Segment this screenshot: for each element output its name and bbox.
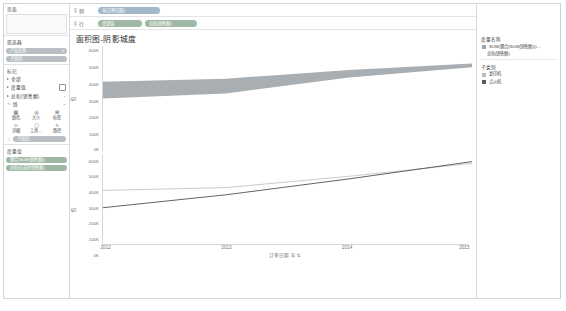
x-axis-title[interactable]: 订单日期 年 ⇅ [102,252,468,258]
x-axis: 2012 2013 2014 2015 订单日期 年 ⇅ [102,244,468,266]
marks-button-label: 大小 [32,116,40,120]
marks-buttons-grid: ▦ 颜色 ◎ 大小 ⊞ 标签 ⊹ 详细 ▢ 工具… [4,108,69,136]
legend-item[interactable]: 点火机 [477,78,560,86]
expand-arrow-icon[interactable] [7,78,9,80]
marks-button-path[interactable]: ∿ 路径 [47,122,67,134]
x-tick: 2015 [459,245,469,250]
rows-shelf-label: 行 [70,20,98,27]
marks-pill-subcategory[interactable]: 子类别 [13,136,66,142]
legend-item[interactable]: 复印机 [477,71,560,79]
y-tick: 400K [89,190,99,195]
divider [4,64,69,65]
marks-button-tooltip[interactable]: ▢ 工具… [27,122,47,134]
chevron-down-icon[interactable]: ▾ [62,48,64,55]
marks-button-color[interactable]: ▦ 颜色 [6,109,26,121]
legend-item[interactable]: 总和(销售额) [477,51,560,57]
columns-shelf-label: 列 [70,7,98,14]
y-tick: 300K [89,98,99,103]
y-axis-ticks-top: 600K 500K 400K 300K 200K 100K 0K [76,46,100,151]
pages-shelf-label: 页面 [4,4,69,13]
line-series-igniter [103,162,472,208]
area-band-shape [103,64,472,99]
columns-pill-year-order-date[interactable]: 年(订单日期) [98,7,160,14]
pages-shelf-dropzone[interactable] [6,14,67,34]
measure-values-dropzone[interactable]: 聚合(SUM(销售额)) 总和(先前的销售额) [4,157,69,172]
measure-pill-sum-prior-sales[interactable]: 总和(先前的销售额) [6,165,67,172]
legend-swatch-icon [481,44,487,50]
left-sidebar: 页面 筛选器 产品名称 ▾ 子类别 标记 全部 度量值 [4,4,70,298]
marks-button-label: 工具… [30,129,42,133]
chevron-down-icon[interactable]: ⌄ [63,101,66,106]
y-tick: 100K [89,132,99,137]
rows-pills: 度量值 总和(销售额) [98,20,197,27]
y-tick: 500K [89,65,99,70]
y-tick: 400K [89,81,99,86]
y-tick: 600K [89,48,99,53]
line-series-svg [103,154,472,244]
legend-panel: 度量名称 SUM(聚合(SUM(销售额)))… 总和(销售额) 子类别 复印机 … [476,4,560,298]
filter-pill-label: 子类别 [10,56,22,61]
measure-values-shelf-label: 度量值 [4,146,69,155]
app-frame: 页面 筛选器 产品名称 ▾ 子类别 标记 全部 度量值 [3,3,561,299]
marks-row-sum-sales[interactable]: 总和(销售额) ⌄ [4,92,69,100]
page-title: 面积图-阴影城度 [70,30,476,44]
x-axis-title-text: 订单日期 年 [269,253,295,258]
plot-area-top [102,46,472,151]
filters-shelf-label: 筛选器 [4,37,69,46]
y-tick: 600K [89,158,99,163]
chart-pane-measure-values: 值 600K 500K 400K 300K 200K 100K 0K [70,46,472,151]
mark-type-icon[interactable] [59,84,66,91]
sort-icon[interactable]: ⇅ [297,253,301,258]
y-tick: 300K [89,205,99,210]
rows-pill-measure-values[interactable]: 度量值 [98,20,142,27]
marks-row-all[interactable]: 全部 [4,75,69,83]
color-icon: ▦ [13,110,18,115]
x-tick: 2013 [221,245,231,250]
chevron-down-icon[interactable]: ⌄ [63,93,66,98]
columns-pills: 年(订单日期) [98,7,160,14]
expand-arrow-icon[interactable] [7,86,9,88]
area-band-svg [103,46,472,151]
marks-row-label: 总和(销售额) [11,93,39,99]
label-icon: ⊞ [55,110,59,115]
rows-label-text: 行 [79,20,84,27]
measure-pill-agg-sum-sales[interactable]: 聚合(SUM(销售额)) [6,157,67,164]
marks-button-label: 详细 [12,129,20,133]
line-series-copier [103,163,472,190]
marks-row-measure-values[interactable]: 度量值 [4,83,69,92]
divider [4,35,69,36]
divider [480,59,557,60]
legend-item-label: 复印机 [489,71,501,76]
rows-pill-sum-sales[interactable]: 总和(销售额) [145,20,197,27]
worksheet-canvas: 面积图-阴影城度 值 600K 500K 400K 300K 200K 100K… [70,30,476,298]
mark-type-selector[interactable]: ∿ 线 ⌄ [4,100,69,108]
marks-button-label[interactable]: ⊞ 标签 [47,109,67,121]
filter-pill-product-name[interactable]: 产品名称 ▾ [6,48,67,55]
x-tick: 2014 [342,245,352,250]
marks-button-label: 路径 [53,129,61,133]
marks-detail-subcategory[interactable]: ⁙ 子类别 [4,135,69,143]
plot-wrapper: 值 600K 500K 400K 300K 200K 100K 0K [70,46,476,298]
marks-card-label: 标记 [4,66,69,75]
line-icon: ∿ [7,101,11,106]
marks-button-size[interactable]: ◎ 大小 [27,109,47,121]
marks-button-label: 颜色 [12,116,20,120]
mark-type-label: 线 [13,101,17,107]
grip-icon [74,21,77,26]
tableau-workspace: 页面 筛选器 产品名称 ▾ 子类别 标记 全部 度量值 [0,0,566,311]
y-tick: 0K [94,252,99,257]
marks-button-label: 标签 [53,116,61,120]
y-tick: 200K [89,221,99,226]
grip-icon [74,8,77,13]
y-tick: 500K [89,174,99,179]
expand-arrow-icon[interactable] [7,95,9,97]
marks-button-detail[interactable]: ⊹ 详细 [6,122,26,134]
y-tick: 100K [89,237,99,242]
filters-shelf-dropzone[interactable]: 产品名称 ▾ 子类别 [4,48,69,63]
y-tick: 0K [94,146,99,151]
divider [4,144,69,145]
columns-label-text: 列 [79,7,84,14]
legend-item[interactable]: SUM(聚合(SUM(销售额)))… [477,43,560,51]
size-icon: ◎ [34,110,38,115]
filter-pill-subcategory[interactable]: 子类别 [6,56,67,63]
